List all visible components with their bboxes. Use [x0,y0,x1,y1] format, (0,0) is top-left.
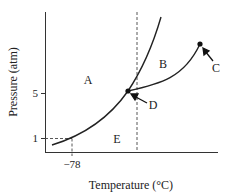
phase-diagram: A B E C D 5 1 −78 Temperature (°C) Press… [0,0,231,194]
y-tick-1-label: 1 [33,132,39,144]
region-a-label: A [84,73,93,87]
text-labels: A B E C D 5 1 −78 Temperature (°C) Press… [6,47,220,192]
melting-curve [128,17,161,91]
point-d [125,88,130,93]
point-c-label: C [212,61,220,75]
y-tick-5-label: 5 [33,87,39,99]
x-axis-label: Temperature (°C) [89,178,173,192]
axes [41,12,218,153]
point-c [197,41,202,46]
region-e-label: E [113,132,120,146]
x-tick-minus78-label: −78 [63,158,81,170]
y-axis-label: Pressure (atm) [6,47,20,117]
phase-curves [52,17,200,145]
region-b-label: B [159,57,167,71]
arrows [131,48,213,103]
point-d-label: D [149,98,158,112]
